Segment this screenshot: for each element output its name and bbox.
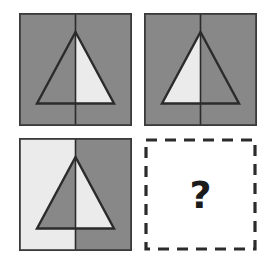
puzzle-cell-1[interactable] (19, 13, 132, 126)
puzzle-grid: ? (0, 0, 271, 266)
puzzle-cell-3[interactable] (19, 138, 132, 251)
panel-figure-3 (19, 138, 132, 251)
puzzle-cell-4-answer-slot[interactable]: ? (144, 138, 257, 251)
answer-placeholder[interactable]: ? (144, 138, 257, 251)
panel-figure-2 (144, 13, 257, 126)
panel-figure-1 (19, 13, 132, 126)
question-mark-label: ? (189, 176, 211, 214)
puzzle-cell-2[interactable] (144, 13, 257, 126)
